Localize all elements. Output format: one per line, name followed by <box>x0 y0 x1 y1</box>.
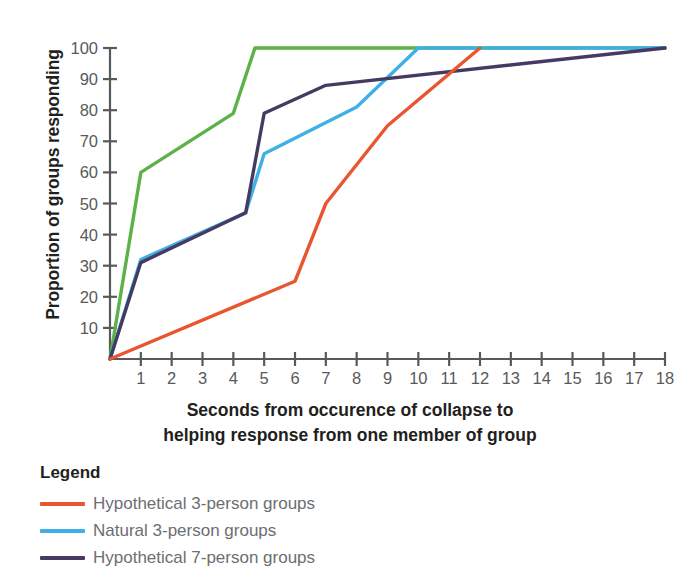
x-axis-title: Seconds from occurence of collapse to he… <box>60 398 640 449</box>
legend-item-label: Hypothetical 3-person groups <box>93 494 315 514</box>
x-tick-label: 18 <box>656 369 674 388</box>
x-tick-label: 1 <box>136 369 145 388</box>
y-tick-label: 20 <box>40 287 98 306</box>
x-tick-label: 3 <box>198 369 207 388</box>
x-tick-label: 4 <box>229 369 238 388</box>
y-tick-label: 100 <box>40 39 98 58</box>
y-tick-label: 90 <box>40 70 98 89</box>
legend-swatch-icon <box>40 556 85 560</box>
y-tick-label: 30 <box>40 256 98 275</box>
legend-title: Legend <box>40 463 440 483</box>
x-tick-label: 11 <box>441 369 458 388</box>
y-tick-label: 50 <box>40 194 98 213</box>
y-tick-label: 40 <box>40 225 98 244</box>
x-tick-label: 10 <box>409 369 427 388</box>
x-tick-label: 16 <box>594 369 612 388</box>
series-line-2 <box>110 48 665 359</box>
x-tick-label: 7 <box>321 369 330 388</box>
plot-area <box>0 0 692 400</box>
x-tick-label: 14 <box>532 369 550 388</box>
x-tick-label: 17 <box>625 369 643 388</box>
x-tick-label: 6 <box>290 369 299 388</box>
y-tick-label: 70 <box>40 132 98 151</box>
x-tick-label: 15 <box>563 369 581 388</box>
x-tick-label: 13 <box>502 369 520 388</box>
legend-items: Hypothetical 3-person groupsNatural 3-pe… <box>40 490 440 570</box>
legend-item[interactable]: Natural 3-person groups <box>40 517 440 544</box>
legend-swatch-icon <box>40 529 85 533</box>
series-line-0 <box>110 48 665 359</box>
y-tick-label: 80 <box>40 101 98 120</box>
x-tick-label: 12 <box>471 369 489 388</box>
series-line-3 <box>110 48 480 359</box>
legend: Legend Hypothetical 3-person groupsNatur… <box>40 463 440 570</box>
legend-item[interactable]: Hypothetical 7-person groups <box>40 544 440 570</box>
legend-swatch-icon <box>40 502 85 506</box>
x-axis-title-line-2: helping response from one member of grou… <box>60 423 640 448</box>
legend-item-label: Natural 3-person groups <box>93 521 276 541</box>
legend-item-label: Hypothetical 7-person groups <box>93 548 315 568</box>
x-tick-label: 8 <box>352 369 361 388</box>
y-tick-label: 10 <box>40 318 98 337</box>
x-axis-title-line-1: Seconds from occurence of collapse to <box>60 398 640 423</box>
x-tick-label: 2 <box>167 369 176 388</box>
x-tick-label: 9 <box>383 369 392 388</box>
series-line-1 <box>110 48 665 359</box>
x-tick-label: 5 <box>260 369 269 388</box>
y-tick-label: 60 <box>40 163 98 182</box>
legend-item[interactable]: Hypothetical 3-person groups <box>40 490 440 517</box>
